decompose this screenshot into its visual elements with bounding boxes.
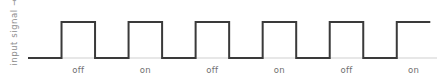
tick-label-off-3: off [206,65,218,75]
waveform-plot [0,0,441,83]
tick-label-on-4: on [274,65,285,75]
tick-label-off-5: off [340,65,352,75]
tick-label-on-2: on [140,65,151,75]
tick-label-on-6: on [408,65,419,75]
tick-label-off-1: off [72,65,84,75]
square-wave-figure: input signal → offonoffonoffon [0,0,441,83]
square-wave-trace [28,22,430,58]
